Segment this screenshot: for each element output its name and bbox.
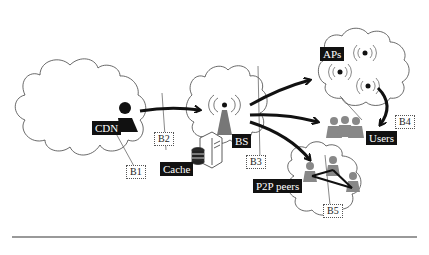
users-icon [326,116,364,138]
cache-label: Cache [160,162,193,176]
bs-label: BS [232,134,251,148]
boundary-b1: B1 [126,165,146,179]
boundary-b5: B5 [323,204,343,218]
p2p-peers-label: P2P peers [253,179,302,193]
boundary-b4: B4 [395,115,415,129]
aps-label: APs [320,47,344,61]
aps-cloud [318,28,409,105]
users-label: Users [366,131,397,145]
bottom-rule [12,236,417,238]
cache-server-icon [192,132,222,168]
boundary-b2: B2 [154,132,174,146]
cdn-label: CDN [92,121,121,135]
network-diagram [0,0,429,255]
boundary-b3: B3 [246,155,266,169]
